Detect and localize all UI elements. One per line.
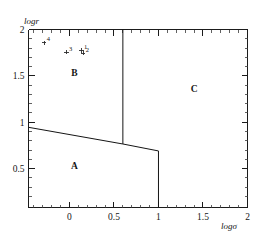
x-tick-label: 2 — [245, 212, 250, 222]
y-axis-title: logr — [24, 16, 40, 26]
data-points — [42, 41, 86, 56]
x-tick-label: 1.5 — [197, 212, 209, 222]
axes — [29, 30, 248, 208]
x-tick-label: 0.5 — [108, 212, 120, 222]
axis-tick-labels: 00.511.520.511.52 — [13, 25, 251, 222]
data-point-label: 2 — [86, 46, 89, 53]
region-label-a: A — [71, 161, 78, 171]
data-point-label: 4 — [47, 35, 51, 42]
x-tick-label: 0 — [67, 212, 72, 222]
data-point-label: 3 — [69, 45, 72, 52]
y-tick-label: 0.5 — [13, 164, 25, 174]
region-label-c: C — [191, 84, 198, 94]
region-diagram-plot: 00.511.520.511.52 4312 ABC logσ logr — [0, 0, 264, 238]
data-point-marker — [42, 41, 46, 45]
axis-ticks — [29, 30, 248, 208]
region-boundaries — [29, 30, 159, 208]
region-label-b: B — [71, 68, 78, 78]
x-tick-label: 1 — [156, 212, 161, 222]
data-point-marker — [64, 50, 68, 54]
y-tick-label: 2 — [20, 25, 25, 35]
boundary-sloped-divider — [29, 127, 159, 151]
y-tick-label: 1 — [20, 118, 25, 128]
chart-container: 00.511.520.511.52 4312 ABC logσ logr — [0, 0, 264, 238]
x-axis-title: logσ — [221, 221, 238, 231]
y-tick-label: 1.5 — [13, 71, 25, 81]
region-labels: ABC — [71, 68, 198, 171]
